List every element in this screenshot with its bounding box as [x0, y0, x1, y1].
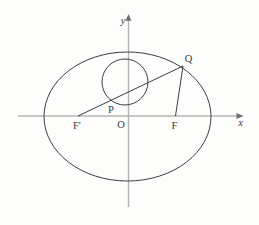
- focus-right-label: F: [172, 120, 178, 131]
- origin-label: O: [117, 119, 125, 130]
- focus-left-label: F′: [73, 120, 81, 131]
- x-axis-label: x: [237, 117, 243, 128]
- point-q-label: Q: [185, 53, 193, 64]
- ellipse-foci-diagram: y x Q P F′ O F: [0, 0, 259, 225]
- segment-fprime-to-q: [78, 66, 183, 116]
- segment-q-to-f: [176, 66, 184, 116]
- diagram-canvas: y x Q P F′ O F: [0, 0, 259, 225]
- y-axis-arrow-icon: [126, 14, 132, 21]
- y-axis-label: y: [120, 15, 126, 26]
- point-p-label: P: [108, 104, 114, 115]
- inner-circle: [102, 59, 148, 105]
